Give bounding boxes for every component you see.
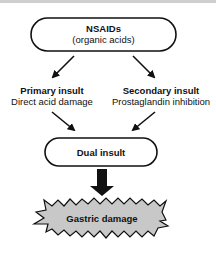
secondary-insult-subtitle: Prostaglandin inhibition: [106, 96, 216, 107]
primary-insult-title: Primary insult: [0, 85, 104, 96]
arrow-primary-to-dual: [52, 112, 74, 130]
nsaids-title: NSAIDs: [31, 23, 176, 34]
arrow-to-primary: [53, 56, 74, 77]
secondary-insult-title: Secondary insult: [106, 85, 216, 96]
dual-insult-label: Dual insult: [45, 147, 157, 158]
arrow-to-secondary: [133, 56, 154, 77]
big-down-arrow: [90, 169, 114, 196]
primary-insult-subtitle: Direct acid damage: [0, 96, 104, 107]
gastric-damage-label: Gastric damage: [40, 213, 164, 224]
arrow-secondary-to-dual: [133, 112, 155, 130]
nsaids-subtitle: (organic acids): [31, 34, 176, 45]
